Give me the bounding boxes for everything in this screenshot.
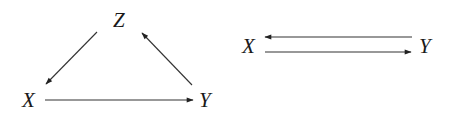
node-y: Y — [199, 88, 213, 112]
triangle-diagram: Z X Y — [21, 8, 213, 112]
bidirectional-diagram: X Y — [241, 34, 433, 58]
node-z: Z — [113, 8, 125, 32]
edge-z-to-x — [46, 32, 97, 84]
edge-y-to-z — [142, 33, 192, 85]
causal-diagrams: Z X Y X Y — [0, 0, 450, 113]
node-x: X — [241, 34, 256, 58]
node-x: X — [21, 88, 36, 112]
node-y: Y — [419, 34, 433, 58]
